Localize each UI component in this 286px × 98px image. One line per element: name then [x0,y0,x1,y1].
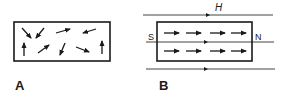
panel-label-a: A [15,78,25,93]
domain-arrow [38,45,49,53]
domain-arrow [83,29,96,33]
field-direction-icon [204,67,208,71]
panel-b-magnetized: H S N B [143,2,275,93]
panel-a-unmagnetized: A [14,22,110,93]
material-box-a [14,22,110,61]
magnetic-domains-diagram: A H S N B [0,0,286,98]
panel-label-b: B [159,78,168,93]
random-domain-arrows [22,28,102,56]
field-direction-icon [206,13,210,17]
domain-arrow [56,29,70,33]
domain-arrow [60,43,65,55]
north-pole-label: N [255,32,262,42]
domain-arrow [76,47,89,52]
field-direction-icon [204,40,208,44]
field-label-h: H [215,2,223,13]
domain-arrow [22,28,31,38]
domain-arrow [36,28,44,38]
south-pole-label: S [148,32,154,42]
